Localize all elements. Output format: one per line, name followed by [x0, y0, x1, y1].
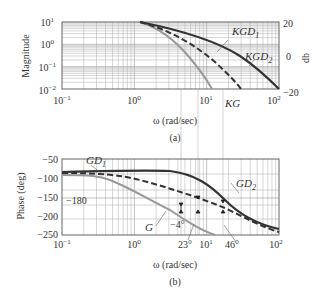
bode-figure: KGD1 KGD2 KG 101 100 10−1 10−2 20 0 −20 … — [0, 0, 321, 293]
svg-text:10−1: 10−1 — [53, 238, 71, 250]
svg-text:100: 100 — [41, 38, 55, 50]
svg-text:102: 102 — [267, 94, 281, 106]
magnitude-axis-label: Magnitude — [20, 34, 31, 78]
label-margin-46: 46° — [225, 239, 239, 250]
label-margin-23: 23° — [178, 239, 192, 250]
db-axis-label: db — [300, 53, 311, 63]
label-minus180: −180 — [66, 195, 87, 206]
db-y-ticks: 20 0 −20 — [283, 18, 299, 98]
magnitude-x-ticks: 10−1 100 101 102 — [53, 94, 281, 106]
svg-text:100: 100 — [127, 94, 141, 106]
curve-kg — [140, 22, 212, 89]
phase-x-ticks: 10−1 100 101 102 — [53, 238, 283, 250]
guide-lines — [181, 89, 223, 235]
caption-a: (a) — [169, 132, 180, 144]
caption-b: (b) — [169, 276, 181, 288]
phase-axis-label: Phase (deg) — [15, 173, 27, 220]
svg-text:101: 101 — [41, 16, 55, 28]
svg-text:−200: −200 — [37, 211, 58, 222]
label-margin-neg4: −4° — [170, 219, 185, 230]
svg-text:10−1: 10−1 — [53, 94, 71, 106]
magnitude-y-ticks: 101 100 10−1 10−2 — [39, 16, 57, 96]
xlabel-b: ω (rad/sec) — [153, 259, 197, 271]
svg-text:−150: −150 — [37, 192, 58, 203]
svg-text:−50: −50 — [42, 154, 58, 165]
svg-text:100: 100 — [127, 238, 141, 250]
svg-text:10−1: 10−1 — [39, 61, 57, 73]
svg-text:101: 101 — [199, 94, 213, 106]
svg-text:101: 101 — [199, 238, 213, 250]
svg-text:20: 20 — [283, 18, 293, 29]
label-kg: KG — [224, 97, 240, 109]
svg-text:102: 102 — [269, 238, 283, 250]
svg-text:0: 0 — [286, 51, 291, 62]
svg-text:−20: −20 — [283, 87, 299, 98]
svg-text:−100: −100 — [37, 173, 58, 184]
phase-y-ticks: −50 −100 −150 −200 −250 — [37, 154, 58, 240]
label-g: G — [145, 221, 153, 233]
xlabel-a: ω (rad/sec) — [153, 115, 197, 127]
label-gd1: GD1 — [86, 154, 106, 169]
margin-arrows — [179, 196, 225, 213]
